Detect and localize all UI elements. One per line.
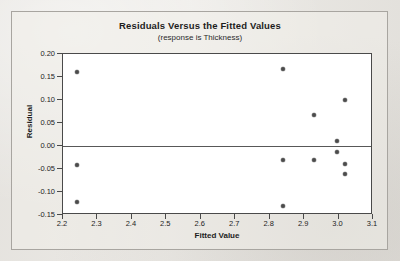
chart-title: Residuals Versus the Fitted Values: [0, 20, 400, 31]
x-tick-mark: [165, 214, 166, 219]
chart-screenshot: Residuals Versus the Fitted Values (resp…: [0, 0, 400, 261]
y-tick-label: 0.20: [25, 49, 55, 58]
y-tick-label: 0.10: [25, 95, 55, 104]
x-tick-label: 3.1: [357, 219, 387, 228]
data-point: [312, 158, 316, 162]
x-tick-label: 2.4: [116, 219, 146, 228]
x-tick-label: 2.3: [81, 219, 111, 228]
x-tick-mark: [372, 214, 373, 219]
zero-reference-line: [63, 146, 371, 147]
x-tick-label: 2.7: [219, 219, 249, 228]
data-point: [75, 200, 79, 204]
x-tick-mark: [62, 214, 63, 219]
data-point: [343, 172, 347, 176]
data-point: [335, 139, 339, 143]
data-point: [75, 70, 79, 74]
x-tick-mark: [303, 214, 304, 219]
y-tick-label: -0.15: [25, 210, 55, 219]
x-tick-mark: [338, 214, 339, 219]
x-tick-mark: [200, 214, 201, 219]
data-point: [281, 67, 285, 71]
data-point: [343, 162, 347, 166]
x-tick-label: 2.6: [185, 219, 215, 228]
x-tick-label: 2.5: [150, 219, 180, 228]
x-tick-label: 2.2: [47, 219, 77, 228]
x-axis-title: Fitted Value: [62, 231, 372, 240]
plot-data-surface: [63, 54, 371, 213]
data-point: [281, 158, 285, 162]
plot-frame: [62, 53, 372, 214]
x-tick-mark: [96, 214, 97, 219]
y-tick-label: -0.05: [25, 164, 55, 173]
x-tick-mark: [269, 214, 270, 219]
chart-subtitle: (response is Thickness): [0, 33, 400, 42]
data-point: [281, 204, 285, 208]
residual-scatter-chart: Residuals Versus the Fitted Values (resp…: [0, 0, 400, 261]
y-tick-label: -0.10: [25, 187, 55, 196]
x-tick-mark: [234, 214, 235, 219]
data-point: [312, 113, 316, 117]
data-point: [343, 98, 347, 102]
x-tick-label: 2.9: [288, 219, 318, 228]
data-point: [75, 163, 79, 167]
y-tick-label: 0.00: [25, 141, 55, 150]
y-tick-label: 0.05: [25, 118, 55, 127]
x-tick-label: 2.8: [254, 219, 284, 228]
y-tick-label: 0.15: [25, 72, 55, 81]
x-tick-label: 3.0: [323, 219, 353, 228]
data-point: [335, 150, 339, 154]
x-tick-mark: [131, 214, 132, 219]
